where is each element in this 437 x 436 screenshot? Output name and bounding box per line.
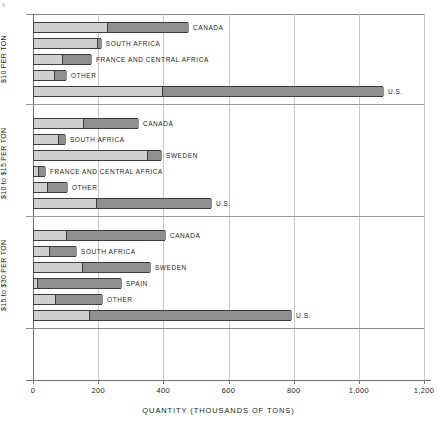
group-label-1: $10 to $15 PER TON	[0, 110, 14, 216]
bar	[33, 310, 291, 321]
x-tick-1000	[359, 380, 360, 384]
bar-segment-dark	[97, 39, 102, 48]
bar-label: SWEDEN	[155, 262, 187, 273]
bar-segment-dark	[66, 231, 166, 240]
bar-label: CANADA	[193, 22, 223, 33]
x-axis-title: QUANTITY (THOUSANDS OF TONS)	[0, 406, 437, 415]
x-tick-0	[33, 380, 34, 384]
bar	[33, 38, 101, 49]
bar	[33, 262, 150, 273]
bar-segment-dark	[37, 279, 122, 288]
gridline-1000	[359, 14, 360, 380]
bar-label: SOUTH AFRICA	[81, 246, 136, 257]
bar-segment-dark	[162, 87, 384, 96]
bar-segment-dark	[107, 23, 189, 32]
stacked-bar-chart: CANADASOUTH AFRICAFRANCE AND CENTRAL AFR…	[0, 0, 437, 436]
plot-area: CANADASOUTH AFRICAFRANCE AND CENTRAL AFR…	[33, 14, 424, 380]
bar	[33, 134, 65, 145]
bar	[33, 278, 121, 289]
bar-segment-dark	[58, 135, 66, 144]
x-tick-label-1000: 1,000	[349, 386, 369, 395]
bar	[33, 294, 102, 305]
x-tick-label-800: 800	[287, 386, 300, 395]
x-tick-600	[229, 380, 230, 384]
x-tick-label-1200: 1,200	[414, 386, 434, 395]
bar-segment-dark	[55, 295, 103, 304]
bar-segment-dark	[89, 311, 292, 320]
bar-segment-dark	[54, 71, 67, 80]
bar-segment-dark	[49, 247, 77, 256]
bar-label: CANADA	[143, 118, 173, 129]
bar	[33, 230, 165, 241]
bar	[33, 22, 188, 33]
gridline-0	[33, 14, 34, 380]
bar-label: U.S.	[216, 198, 231, 209]
x-tick-800	[294, 380, 295, 384]
bar-segment-dark	[82, 263, 151, 272]
bar-label: SWEDEN	[166, 150, 198, 161]
x-tick-1200	[424, 380, 425, 384]
gridline-800	[294, 14, 295, 380]
bar-segment-dark	[62, 55, 92, 64]
plot-top-border	[26, 14, 424, 15]
bar-label: OTHER	[72, 182, 98, 193]
bar-segment-dark	[147, 151, 162, 160]
bar-label: FRANCE AND CENTRAL AFRICA	[96, 54, 209, 65]
bar	[33, 182, 67, 193]
gridline-1200	[424, 14, 425, 380]
panel-separator	[26, 328, 424, 329]
x-tick-200	[98, 380, 99, 384]
gridline-400	[163, 14, 164, 380]
bar	[33, 246, 76, 257]
x-tick-label-400: 400	[157, 386, 170, 395]
bar-label: U.S.	[296, 310, 311, 321]
bar-label: CANADA	[170, 230, 200, 241]
bar-segment-dark	[38, 167, 46, 176]
bar	[33, 118, 138, 129]
bar	[33, 86, 383, 97]
x-tick-400	[163, 380, 164, 384]
x-tick-label-0: 0	[31, 386, 35, 395]
bar-label: OTHER	[71, 70, 97, 81]
bar	[33, 70, 66, 81]
bar-label: SOUTH AFRICA	[70, 134, 125, 145]
panel-separator	[26, 104, 424, 105]
group-label-2: $15 to $30 PER TON	[0, 222, 14, 328]
bar	[33, 198, 211, 209]
bar	[33, 150, 161, 161]
bar-segment-dark	[83, 119, 139, 128]
panel-separator	[26, 216, 424, 217]
bar-label: U.S.	[388, 86, 403, 97]
x-tick-label-600: 600	[222, 386, 235, 395]
bar-label: FRANCE AND CENTRAL AFRICA	[50, 166, 163, 177]
bar-label: SOUTH AFRICA	[106, 38, 161, 49]
bar-label: OTHER	[107, 294, 133, 305]
bar	[33, 54, 91, 65]
bar	[33, 166, 45, 177]
gridline-200	[98, 14, 99, 380]
bar-segment-dark	[47, 183, 68, 192]
x-tick-label-200: 200	[91, 386, 104, 395]
bar-label: SPAIN	[126, 278, 148, 289]
bar-segment-dark	[96, 199, 212, 208]
group-label-0: $10 PER TON	[0, 14, 14, 104]
